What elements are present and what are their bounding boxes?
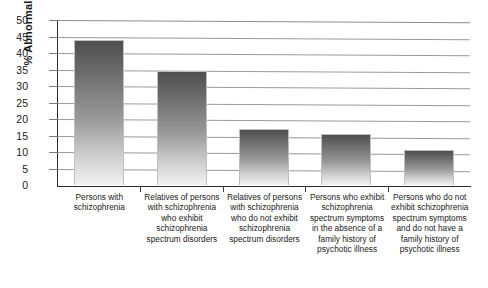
x-axis-line bbox=[57, 186, 471, 187]
y-axis-tick-label: 50 bbox=[2, 15, 28, 25]
x-axis-category-label: Persons who exhibit schizophrenia spectr… bbox=[306, 192, 389, 284]
y-axis-tick-mark bbox=[49, 136, 58, 137]
y-axis-tick-mark bbox=[49, 119, 58, 120]
y-axis-tick-label: 35 bbox=[2, 65, 28, 75]
x-axis-category-label: Relatives of persons with schizophrenia … bbox=[141, 192, 224, 284]
y-axis-tick-mark bbox=[49, 70, 58, 71]
y-axis-tick-label: 45 bbox=[2, 32, 28, 42]
y-axis-tick-mark bbox=[49, 103, 58, 104]
bar bbox=[321, 134, 371, 185]
y-axis-tick-mark bbox=[49, 20, 58, 21]
y-axis-tick-mark bbox=[49, 86, 58, 87]
y-axis-tick-mark bbox=[49, 169, 58, 170]
y-axis-tick-label: 10 bbox=[2, 147, 28, 157]
bar bbox=[239, 129, 289, 185]
x-axis-category-label: Persons with schizophrenia bbox=[58, 192, 141, 284]
y-axis-tick-label: 30 bbox=[2, 81, 28, 91]
y-axis-tick-label: 40 bbox=[2, 48, 28, 58]
y-axis-tick-label: 20 bbox=[2, 114, 28, 124]
y-axis-tick-mark bbox=[49, 37, 58, 38]
bar-chart: % Abnormal 05101520253035404550 Persons … bbox=[0, 0, 488, 288]
y-axis-tick-label: 0 bbox=[2, 180, 28, 190]
y-axis-tick-label: 5 bbox=[2, 164, 28, 174]
bar bbox=[157, 71, 207, 185]
y-axis-tick-mark bbox=[49, 152, 58, 153]
y-axis-tick-label: 15 bbox=[2, 131, 28, 141]
y-axis-tick-label: 25 bbox=[2, 98, 28, 108]
x-axis-category-label: Persons who do not exhibit schizophrenia… bbox=[388, 192, 471, 284]
x-axis-category-label: Relatives of persons with schizophrenia … bbox=[223, 192, 306, 284]
y-axis-tick-mark bbox=[49, 53, 58, 54]
bar bbox=[404, 150, 454, 185]
gridline bbox=[58, 20, 470, 23]
x-axis-category-labels: Persons with schizophreniaRelatives of p… bbox=[58, 192, 471, 284]
bar bbox=[74, 40, 124, 185]
plot-area: 05101520253035404550 bbox=[58, 20, 470, 185]
